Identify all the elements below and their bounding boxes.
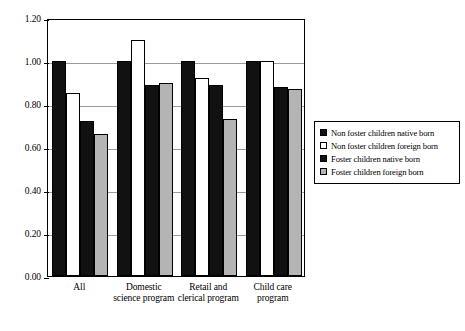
bar-group bbox=[48, 20, 113, 276]
bar bbox=[94, 134, 108, 276]
bar bbox=[66, 93, 80, 276]
bar bbox=[260, 61, 274, 276]
legend-swatch-icon bbox=[320, 168, 327, 175]
legend-item: Non foster children foreign born bbox=[320, 139, 454, 152]
bar bbox=[80, 121, 94, 276]
bar bbox=[145, 85, 159, 276]
bar bbox=[195, 78, 209, 276]
x-axis-tick-label: Retail and clerical program bbox=[176, 282, 241, 304]
plot-area: 0.000.200.400.600.801.001.20 bbox=[47, 19, 305, 277]
bar bbox=[274, 87, 288, 276]
legend-item: Non foster children native born bbox=[320, 126, 454, 139]
bar bbox=[181, 61, 195, 276]
legend-swatch-icon bbox=[320, 129, 327, 136]
y-axis-tick-label: 0.00 bbox=[25, 273, 41, 283]
bar bbox=[117, 61, 131, 276]
chart-figure: 0.000.200.400.600.801.001.20 AllDomestic… bbox=[0, 0, 465, 331]
chart-legend: Non foster children native bornNon foste… bbox=[314, 121, 460, 184]
y-axis-tick bbox=[44, 278, 49, 279]
y-axis-tick-label: 0.20 bbox=[25, 230, 41, 240]
legend-item: Foster children native born bbox=[320, 152, 454, 165]
legend-item-label: Non foster children native born bbox=[331, 128, 434, 138]
bar bbox=[246, 61, 260, 276]
x-axis-tick-label: Child care program bbox=[241, 282, 306, 304]
x-axis-tick-label: Domestic science program bbox=[112, 282, 177, 304]
y-axis-tick-label: 0.40 bbox=[25, 187, 41, 197]
y-axis-tick-label: 1.20 bbox=[25, 15, 41, 25]
bar-group bbox=[177, 20, 242, 276]
bar bbox=[288, 89, 302, 276]
y-axis-tick-label: 0.80 bbox=[25, 101, 41, 111]
legend-item-label: Non foster children foreign born bbox=[331, 141, 438, 151]
bar bbox=[223, 119, 237, 276]
bar bbox=[159, 83, 173, 277]
legend-swatch-icon bbox=[320, 155, 327, 162]
legend-swatch-icon bbox=[320, 142, 327, 149]
x-axis-tick-label: All bbox=[47, 282, 112, 293]
bar-group bbox=[242, 20, 307, 276]
bar-group bbox=[113, 20, 178, 276]
legend-item: Foster children foreign born bbox=[320, 165, 454, 178]
legend-item-label: Foster children native born bbox=[331, 154, 420, 164]
bar bbox=[209, 85, 223, 276]
y-axis-tick-label: 0.60 bbox=[25, 144, 41, 154]
bars-layer bbox=[48, 20, 304, 276]
legend-item-label: Foster children foreign born bbox=[331, 167, 423, 177]
bar bbox=[131, 40, 145, 277]
y-axis-tick-label: 1.00 bbox=[25, 58, 41, 68]
bar bbox=[52, 61, 66, 276]
